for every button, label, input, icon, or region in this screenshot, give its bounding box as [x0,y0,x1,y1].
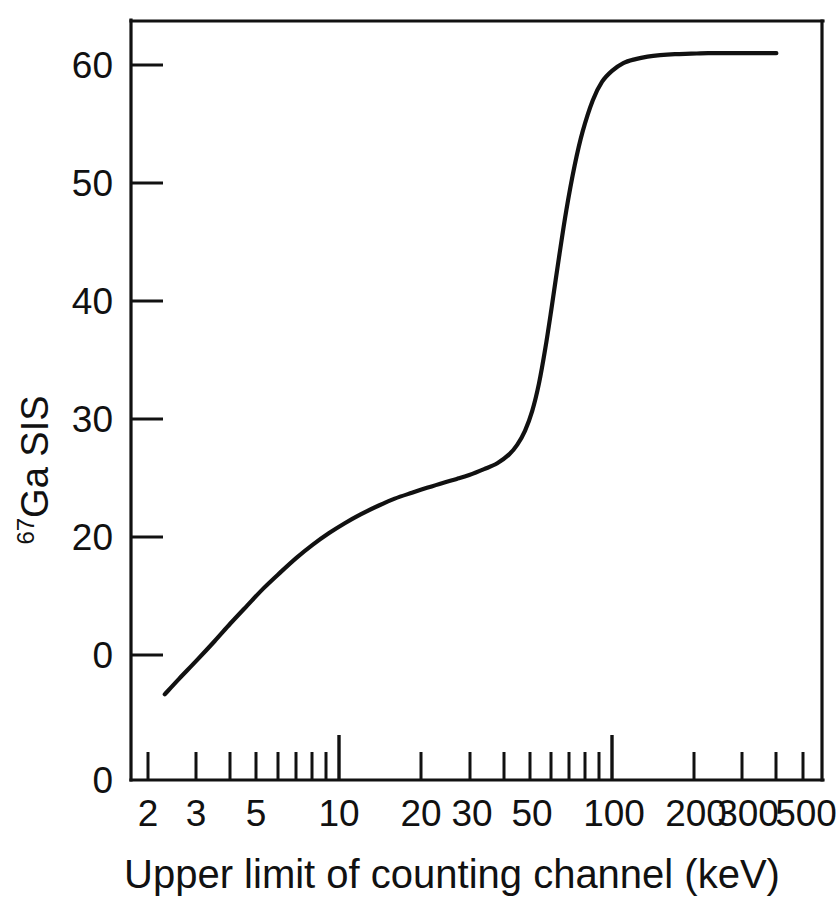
data-series-line [165,53,777,694]
y-tick-label-10: 0 [92,635,113,676]
x-tick-label-500: 500 [775,793,837,834]
x-tick-label-50: 50 [511,793,552,834]
y-axis-tick-labels: 60 50 40 30 20 0 0 [72,45,113,801]
y-tick-label-40: 40 [72,281,113,322]
y-tick-label-60: 60 [72,45,113,86]
y-tick-label-50: 50 [72,163,113,204]
plot-frame [131,20,823,780]
x-tick-label-30: 30 [451,793,492,834]
y-axis-title-base: Ga SIS [14,395,56,518]
x-tick-label-5: 5 [246,793,267,834]
x-tick-label-3: 3 [186,793,207,834]
line-chart: 60 50 40 30 20 0 0 [0,0,838,907]
x-tick-label-300: 300 [717,793,779,834]
y-tick-label-0: 0 [92,760,113,801]
svg-text:67Ga SIS: 67Ga SIS [12,395,56,544]
y-axis-ticks [131,65,163,655]
x-tick-label-10: 10 [318,793,359,834]
x-tick-label-100: 100 [583,793,645,834]
x-axis-ticks [148,735,803,780]
y-axis-title: 67Ga SIS [12,395,56,544]
y-axis-title-superscript: 67 [12,518,39,545]
x-tick-label-2: 2 [138,793,159,834]
x-axis-title: Upper limit of counting channel (keV) [124,852,780,896]
x-tick-label-20: 20 [400,793,441,834]
figure-container: 60 50 40 30 20 0 0 [0,0,838,907]
y-tick-label-30: 30 [72,399,113,440]
y-tick-label-20: 20 [72,517,113,558]
x-axis-tick-labels: 2 3 5 10 20 30 50 100 200 300 500 [138,793,837,834]
